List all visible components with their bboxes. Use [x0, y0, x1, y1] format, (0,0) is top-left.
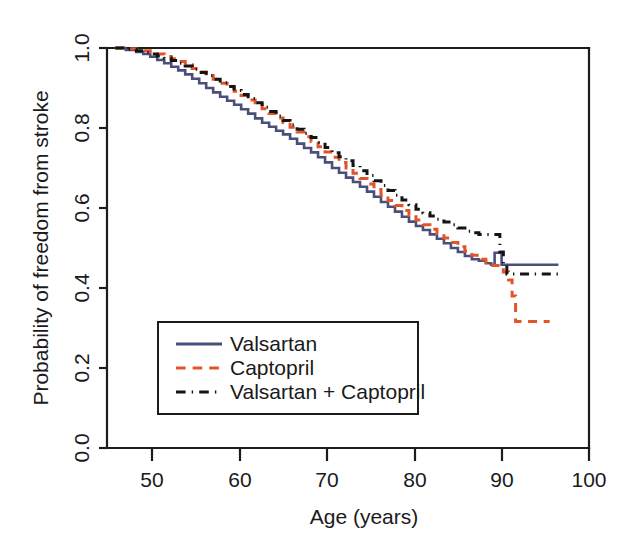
chart-canvas: 0.0 0.2 0.4 0.6 0.8 1.0 50 60 70 80 90 1…: [0, 0, 632, 545]
x-tick-label-4: 90: [490, 468, 513, 491]
legend-label-valsartan: Valsartan: [230, 332, 317, 355]
y-tick-label-3: 0.6: [70, 193, 93, 222]
legend: Valsartan Captopril Valsartan + Captopri…: [158, 322, 425, 414]
y-tick-label-4: 0.8: [70, 113, 93, 142]
y-axis-title: Probability of freedom from stroke: [29, 90, 52, 405]
y-tick-label-2: 0.4: [70, 273, 93, 303]
x-tick-label-5: 100: [571, 468, 606, 491]
legend-label-captopril: Captopril: [230, 356, 314, 379]
legend-label-valsartan-captopril: Valsartan + Captopril: [230, 380, 425, 403]
kaplan-meier-figure: 0.0 0.2 0.4 0.6 0.8 1.0 50 60 70 80 90 1…: [0, 0, 632, 545]
x-tick-label-1: 60: [228, 468, 251, 491]
figure-background: [0, 0, 632, 545]
y-tick-label-0: 0.0: [70, 433, 93, 462]
y-tick-label-1: 0.2: [70, 353, 93, 382]
x-tick-label-2: 70: [315, 468, 338, 491]
x-axis-title: Age (years): [310, 505, 419, 528]
x-tick-label-0: 50: [140, 468, 163, 491]
y-tick-label-5: 1.0: [70, 33, 93, 62]
x-tick-label-3: 80: [403, 468, 426, 491]
